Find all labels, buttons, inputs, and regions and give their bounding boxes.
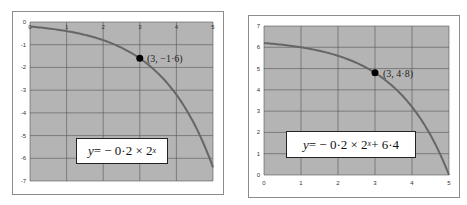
y-tick-label: 1 (257, 151, 261, 157)
right-chart: 01234567012345 (0, 0, 467, 205)
y-tick-label: 2 (257, 129, 261, 135)
y-tick-label: 6 (257, 44, 261, 50)
y-tick-label: 5 (257, 66, 261, 72)
y-tick-label: 4 (257, 87, 261, 93)
right-point-label: (3, 4·8) (383, 68, 413, 79)
highlight-point (372, 69, 379, 76)
y-tick-label: 3 (257, 108, 261, 114)
x-tick-label: 4 (410, 180, 414, 186)
right-eq-tail: + 6·4 (371, 137, 399, 153)
x-tick-label: 3 (373, 180, 377, 186)
x-tick-label: 1 (299, 180, 303, 186)
x-tick-label: 5 (447, 180, 451, 186)
right-eq-exp: x (368, 139, 372, 148)
x-tick-label: 2 (336, 180, 340, 186)
right-eq-rest: = − 0·2 × 2 (309, 137, 368, 153)
y-tick-label: 0 (257, 172, 261, 178)
y-tick-label: 7 (257, 23, 261, 29)
right-equation-box: y = − 0·2 × 2x + 6·4 (286, 131, 416, 158)
x-tick-label: 0 (262, 180, 266, 186)
